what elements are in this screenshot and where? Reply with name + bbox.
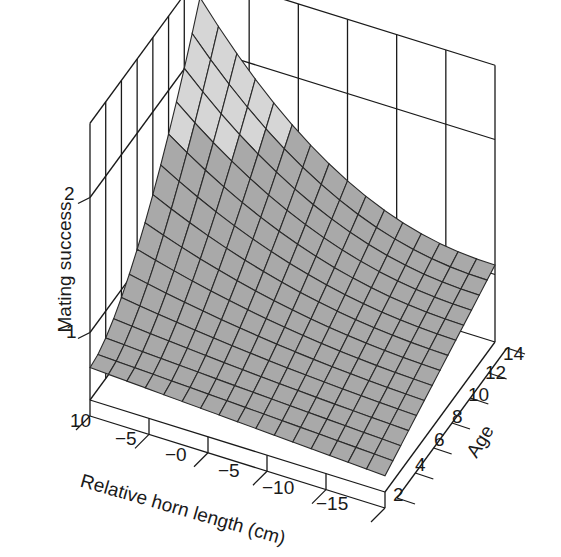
y-tick-6: 6 xyxy=(434,429,445,451)
y-tick-12: 12 xyxy=(485,362,506,384)
x-tick-10: 10 xyxy=(70,410,91,432)
y-tick-4: 4 xyxy=(415,454,426,476)
x-tick-0: −0 xyxy=(165,444,187,466)
x-tick-neg5b: −5 xyxy=(218,460,240,482)
x-tick-neg10: −10 xyxy=(262,477,294,499)
z-tick-2: 2 xyxy=(64,183,75,205)
z-tick-1: 1 xyxy=(66,321,77,343)
y-tick-2: 2 xyxy=(393,484,404,506)
x-tick-neg5a: −5 xyxy=(115,428,137,450)
surface-mesh xyxy=(90,0,495,476)
y-tick-10: 10 xyxy=(468,384,489,406)
y-tick-14: 14 xyxy=(503,343,524,365)
x-tick-neg15: −15 xyxy=(316,493,348,515)
y-tick-8: 8 xyxy=(452,406,463,428)
z-axis-title: Mating success xyxy=(54,192,76,342)
